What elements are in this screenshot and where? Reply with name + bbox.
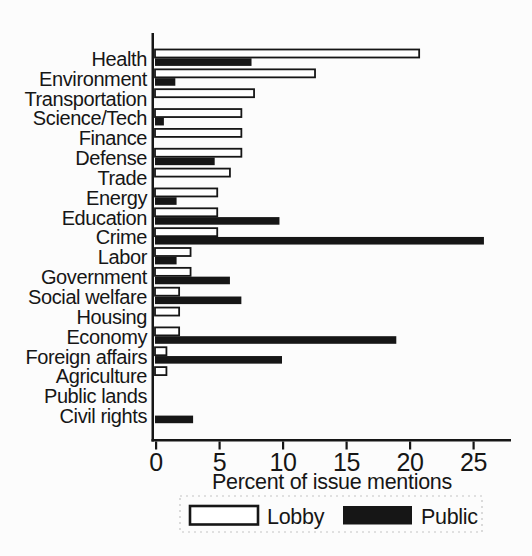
lobby-bar [155,248,191,256]
lobby-bar [155,228,217,236]
y-category-label: Defense [75,147,147,169]
y-category-label: Health [92,48,147,70]
lobby-bar [155,208,217,216]
public-bar [155,158,215,166]
y-category-label: Labor [98,246,148,268]
lobby-bar [155,308,179,316]
lobby-bar [155,129,241,137]
bar-chart-svg: 0510152025HealthEnvironmentTransportatio… [0,0,532,556]
lobby-bar [155,327,179,335]
public-bar [155,197,177,205]
public-bar [155,58,252,66]
lobby-bar [155,109,241,117]
y-category-label: Energy [86,187,147,209]
y-category-label: Government [41,266,148,288]
public-bar [155,78,175,86]
public-bar [155,297,241,305]
x-tick-label: 0 [149,448,162,476]
y-category-label: Housing [76,306,147,328]
public-bar [155,237,484,245]
y-axis-line [152,33,155,442]
lobby-bar [155,50,419,58]
lobby-bar [155,367,166,375]
x-axis-line [152,439,512,442]
grouped-bar-chart-figure: 0510152025HealthEnvironmentTransportatio… [0,0,532,556]
y-category-label: Social welfare [28,286,147,308]
public-bar [155,217,279,225]
legend-lobby-swatch [190,506,258,525]
public-bar [155,277,230,285]
public-bar [155,118,164,126]
y-category-label: Crime [96,226,148,248]
legend-lobby-label: Lobby [267,505,325,529]
public-bar [155,416,193,424]
lobby-bar [155,347,166,355]
lobby-bar [155,149,241,157]
lobby-bar [155,268,191,276]
y-category-label: Science/Tech [33,107,147,129]
lobby-bar [155,69,315,77]
lobby-bar [155,188,217,196]
public-bar [155,257,177,265]
lobby-bar [155,288,179,296]
y-category-label: Civil rights [60,405,148,427]
y-category-label: Education [62,207,147,229]
y-category-label: Economy [66,326,147,348]
y-category-label: Agriculture [56,365,147,387]
y-category-label: Environment [39,68,148,90]
y-category-label: Foreign affairs [26,346,148,368]
lobby-bar [155,169,230,177]
y-category-label: Trade [97,167,147,189]
legend-public-swatch [343,506,412,525]
lobby-bar [155,89,254,97]
legend-public-label: Public [421,505,478,529]
y-category-label: Transportation [24,88,147,110]
y-category-label: Finance [79,127,148,149]
x-tick-label: 25 [460,448,487,476]
y-category-label: Public lands [44,385,147,407]
public-bar [155,336,396,344]
x-axis-title: Percent of issue mentions [212,470,452,494]
public-bar [155,356,282,364]
